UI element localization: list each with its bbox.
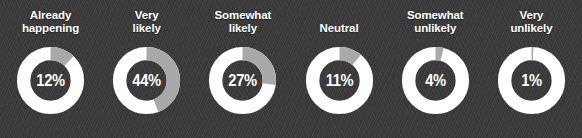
- donut-svg-neutral: [300, 41, 379, 120]
- donut-cell-very-likely: Very likely 44%: [101, 0, 192, 138]
- donut-svg-somewhat-likely: [203, 41, 282, 120]
- donut-svg-already-happening: [11, 41, 90, 120]
- donut-ring-remainder-somewhat-unlikely: [408, 54, 462, 108]
- donut-cell-already-happening: Already happening 12%: [5, 0, 96, 138]
- donut-chart-row: Already happening 12% Very likely 44% So…: [0, 0, 582, 138]
- donut-ring-remainder-very-unlikely: [505, 54, 559, 108]
- donut-svg-very-unlikely: [492, 41, 571, 120]
- donut-label-somewhat-likely: Somewhat likely: [197, 7, 288, 35]
- donut-label-very-likely: Very likely: [101, 7, 192, 35]
- donut-chart-already-happening: 12%: [11, 41, 90, 120]
- donut-label-very-unlikely: Very unlikely: [486, 7, 577, 35]
- donut-svg-very-likely: [107, 41, 186, 120]
- donut-cell-very-unlikely: Very unlikely 1%: [486, 0, 577, 138]
- donut-chart-neutral: 11%: [300, 41, 379, 120]
- donut-chart-somewhat-likely: 27%: [203, 41, 282, 120]
- donut-chart-very-unlikely: 1%: [492, 41, 571, 120]
- donut-svg-somewhat-unlikely: [396, 41, 475, 120]
- donut-label-somewhat-unlikely: Somewhat unlikely: [390, 7, 481, 35]
- donut-label-neutral: Neutral: [294, 7, 385, 35]
- likelihood-donut-infographic: Already happening 12% Very likely 44% So…: [0, 0, 582, 138]
- donut-chart-very-likely: 44%: [107, 41, 186, 120]
- donut-cell-neutral: Neutral 11%: [294, 0, 385, 138]
- donut-cell-somewhat-likely: Somewhat likely 27%: [197, 0, 288, 138]
- donut-cell-somewhat-unlikely: Somewhat unlikely 4%: [390, 0, 481, 138]
- donut-ring-remainder-already-happening: [24, 54, 78, 108]
- donut-chart-somewhat-unlikely: 4%: [396, 41, 475, 120]
- donut-label-already-happening: Already happening: [5, 7, 96, 35]
- donut-ring-remainder-neutral: [312, 54, 366, 108]
